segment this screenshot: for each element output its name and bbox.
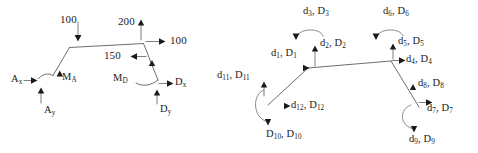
right-arrow-d4-arrowhead [399, 57, 406, 63]
right-arrow-d2-arrowhead [312, 46, 318, 52]
label-reaction-ax-base: A [11, 73, 19, 84]
label-d6-sub: 6 [388, 10, 392, 18]
left-member-right-leg [144, 44, 159, 81]
right-arc-d3-arrowhead [293, 34, 300, 41]
label-D6-sub: 6 [405, 10, 409, 18]
label-d10-sub: 10 [274, 133, 281, 141]
label-D12-sub: 12 [317, 104, 324, 112]
left-load-200-arrowhead [138, 20, 144, 26]
label-reaction-dx-base: D [175, 76, 183, 87]
label-reaction-dy-base: D [160, 103, 168, 114]
label-d5-sub: 5 [403, 40, 407, 48]
figure-root: 100 200 100 150 Ax Ay MA MD Dx Dy d3, D3… [0, 0, 478, 153]
label-D7-sub: 7 [449, 107, 453, 115]
label-reaction-ay-sub: y [52, 109, 56, 117]
label-d3: d3, D3 [303, 6, 329, 17]
label-reaction-dy-sub: y [168, 108, 172, 116]
right-arrow-d5-arrowhead [390, 44, 396, 50]
label-moment-ma-sub: A [71, 76, 76, 84]
label-moment-md-sub: D [122, 77, 127, 85]
label-d4-sub: 4 [411, 58, 415, 66]
label-d2-sub: 2 [325, 42, 329, 50]
label-D9-sub: 9 [431, 138, 435, 146]
label-d9: d9, D9 [409, 134, 435, 145]
label-reaction-dx: Dx [175, 77, 186, 88]
label-reaction-ay-base: A [44, 104, 52, 115]
right-arc-d9 [402, 105, 414, 129]
right-arrow-d11-arrowhead [261, 82, 267, 88]
label-D10-sub: 10 [294, 133, 301, 141]
left-reaction-dy-arrowhead [154, 90, 160, 96]
right-arc-d9-arrowhead [411, 126, 417, 133]
label-D8-sub: 8 [440, 82, 444, 90]
left-force-arrows [24, 20, 174, 105]
label-D12-base: D [309, 99, 317, 110]
label-moment-150: 150 [104, 50, 121, 61]
right-member-rightleg [391, 61, 419, 107]
right-arrow-d12-arrowhead [284, 103, 291, 109]
label-d6: d6, D6 [383, 6, 409, 17]
label-reaction-ax-sub: x [19, 78, 23, 86]
label-moment-md: MD [113, 73, 128, 84]
label-d3-sub: 3 [308, 10, 312, 18]
label-d12-sub: 12 [296, 104, 303, 112]
label-D3-sub: 3 [325, 10, 329, 18]
label-d5: d5, D5 [398, 36, 424, 47]
label-D4-sub: 4 [428, 58, 432, 66]
label-moment-ma: MA [62, 72, 77, 83]
label-reaction-ax: Ax [11, 74, 22, 85]
label-d11: d11, D11 [217, 70, 250, 81]
left-reaction-ax-arrowhead [31, 77, 38, 83]
label-d9-sub: 9 [414, 138, 418, 146]
label-D11-sub: 11 [243, 74, 250, 82]
label-reaction-dx-sub: x [183, 81, 187, 89]
right-arc-d6-arrowhead [373, 34, 380, 41]
label-d12: d12, D12 [291, 100, 324, 111]
label-load-200: 200 [118, 16, 135, 27]
label-D11-base: D [235, 69, 243, 80]
label-load-100-top: 100 [60, 14, 77, 25]
label-d10-base: D [266, 128, 274, 139]
left-load-100-arrowhead [75, 35, 82, 42]
right-arc-d10-arrowhead [265, 119, 271, 126]
label-d11-sub: 11 [222, 74, 229, 82]
label-d4: d4, D4 [406, 54, 432, 65]
label-d2: d2, D2 [320, 38, 346, 49]
right-member-top-chord [308, 61, 391, 68]
left-member-md-curve [136, 80, 158, 85]
left-reaction-dx-arrowhead [167, 80, 174, 86]
label-D1-sub: 1 [293, 52, 297, 60]
label-d7-sub: 7 [432, 107, 436, 115]
left-load-100r-arrowhead [159, 38, 166, 44]
left-moment-150-arrowhead [131, 53, 138, 59]
label-d8-sub: 8 [423, 82, 427, 90]
label-d7: d7, D7 [427, 103, 453, 114]
left-leg-up-arrowhead [149, 60, 155, 66]
label-load-100-right: 100 [170, 35, 187, 46]
label-d1: d1, D1 [271, 48, 297, 59]
label-d1-sub: 1 [276, 52, 280, 60]
left-member-top-chord [70, 44, 144, 48]
label-D2-sub: 2 [342, 42, 346, 50]
left-frame-structure [39, 44, 159, 86]
right-arc-d3 [296, 30, 323, 38]
label-reaction-dy: Dy [160, 104, 171, 115]
label-d8: d8, D8 [418, 78, 444, 89]
label-reaction-ay: Ay [44, 105, 55, 116]
label-d10: D10, D10 [266, 129, 302, 140]
left-member-a-to-ma [39, 74, 54, 79]
right-arc-d11 [255, 90, 268, 122]
label-D5-sub: 5 [420, 40, 424, 48]
left-reaction-ay-arrowhead [38, 88, 44, 94]
right-arrow-d8-arrowhead [410, 84, 416, 90]
